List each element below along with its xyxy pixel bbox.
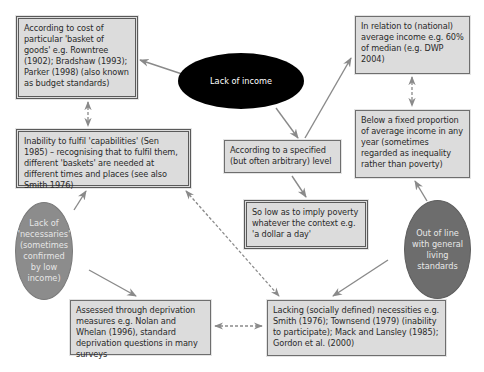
node-capabilities: Inability to fulfil 'capabilities' (Sen … <box>16 129 191 188</box>
node-label: According to cost of particular 'basket … <box>24 23 129 88</box>
arrow-necessaries-to-deprivation <box>89 270 136 296</box>
node-label: Lack of income <box>210 76 272 87</box>
node-label: Below a fixed proportion of average inco… <box>361 115 463 169</box>
node-label: Out of line with general living standard… <box>409 228 466 272</box>
arrow-specified-to-dollar <box>292 176 306 197</box>
node-label: Assessed through deprivation measures e.… <box>76 305 198 359</box>
node-label: According to a specified (but often arbi… <box>230 145 331 166</box>
node-label: Lacking (socially defined) necessities e… <box>273 305 439 348</box>
arrow-outofline-to-fixed <box>415 181 427 201</box>
node-deprivation-measures: Assessed through deprivation measures e.… <box>70 300 211 355</box>
node-label: So low as to imply poverty whatever the … <box>252 207 358 239</box>
arrow-income-to-specified <box>276 108 298 138</box>
arrow-specified-to-national <box>305 58 351 138</box>
node-lack-of-necessaries: Lack of 'necessaries' (sometimes confirm… <box>15 202 73 300</box>
arrow-income-to-basket <box>140 60 182 74</box>
node-fixed-proportion: Below a fixed proportion of average inco… <box>355 110 470 178</box>
node-label: Inability to fulfil 'capabilities' (Sen … <box>24 136 178 190</box>
node-national-average: In relation to (national) average income… <box>355 16 470 74</box>
node-dollar-a-day: So low as to imply poverty whatever the … <box>244 200 368 249</box>
node-label: Lack of 'necessaries' (sometimes confirm… <box>18 218 71 284</box>
arrow-necessaries-to-capabilities <box>74 191 86 210</box>
node-socially-defined: Lacking (socially defined) necessities e… <box>267 300 446 356</box>
node-label: In relation to (national) average income… <box>361 21 464 64</box>
node-lack-of-income: Lack of income <box>178 53 304 109</box>
node-out-of-line: Out of line with general living standard… <box>404 200 471 299</box>
arrow-outofline-to-socially <box>333 260 388 296</box>
node-specified-level: According to a specified (but often arbi… <box>224 140 341 173</box>
node-basket-of-goods: According to cost of particular 'basket … <box>16 16 138 99</box>
